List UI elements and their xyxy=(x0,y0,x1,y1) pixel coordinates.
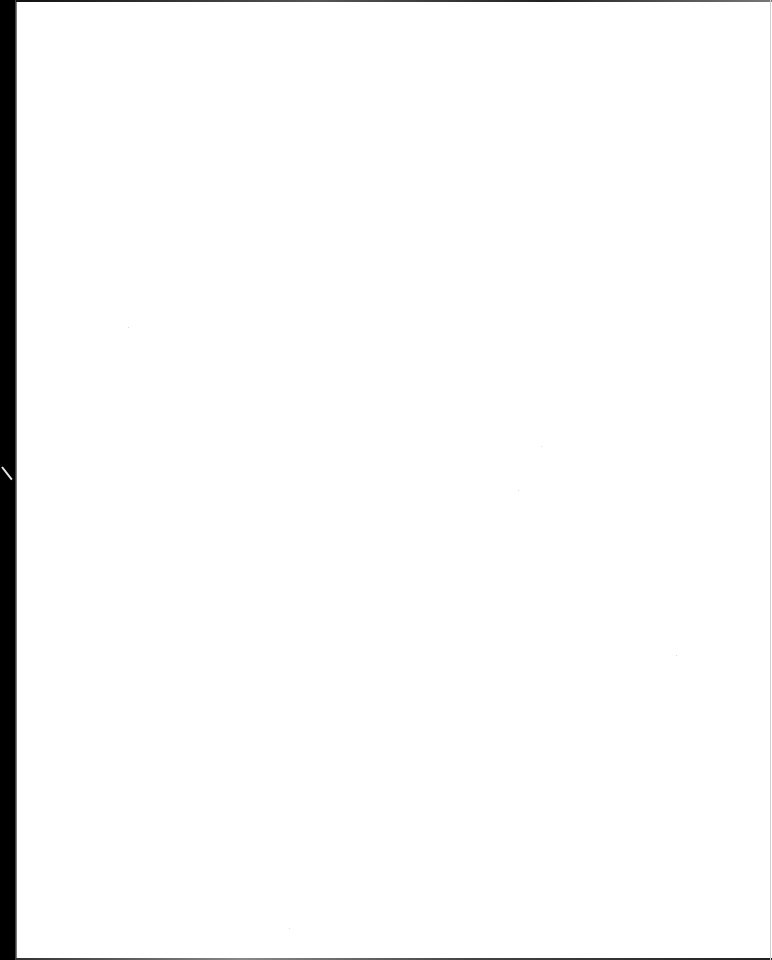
page-content-area xyxy=(17,2,770,958)
scan-border-right xyxy=(770,0,771,960)
scanned-page xyxy=(0,0,772,960)
scan-border-left xyxy=(0,0,16,960)
